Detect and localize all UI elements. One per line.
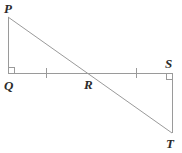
segment-PT [8,17,172,133]
vertex-label-Q: Q [4,79,13,92]
right-angle-S-marker [166,73,172,79]
vertex-label-S: S [165,57,172,70]
vertex-label-P: P [4,2,12,15]
vertex-label-R: R [84,78,93,91]
geometry-figure: P Q R S T [0,0,182,153]
vertex-label-T: T [166,137,174,150]
right-angle-Q-marker [8,67,14,73]
